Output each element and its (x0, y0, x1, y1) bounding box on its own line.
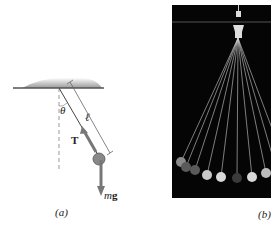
pendulum-strings (181, 38, 271, 178)
tension-vector (84, 131, 96, 152)
pendulum-bobs (176, 157, 271, 183)
caption-b: (b) (258, 208, 271, 220)
pendulum-diagram: θ ℓ T mg (a) (0, 0, 135, 228)
weight-label: mg (104, 189, 117, 201)
tension-label: T (71, 134, 78, 146)
angle-label: θ (60, 104, 65, 116)
gravity-symbol: g (112, 189, 118, 201)
pivot-clamp (233, 25, 244, 38)
pendulum-stroboscopic-photo (172, 5, 271, 198)
tension-arrowhead (80, 126, 88, 134)
pivot-top (236, 11, 241, 17)
length-label: ℓ (85, 111, 90, 123)
multi-exposure-pendulum-image (172, 5, 271, 198)
caption-a: (a) (55, 206, 68, 218)
ceiling-support (22, 78, 102, 88)
pendulum-bob (93, 153, 105, 165)
mass-symbol: m (104, 189, 112, 201)
